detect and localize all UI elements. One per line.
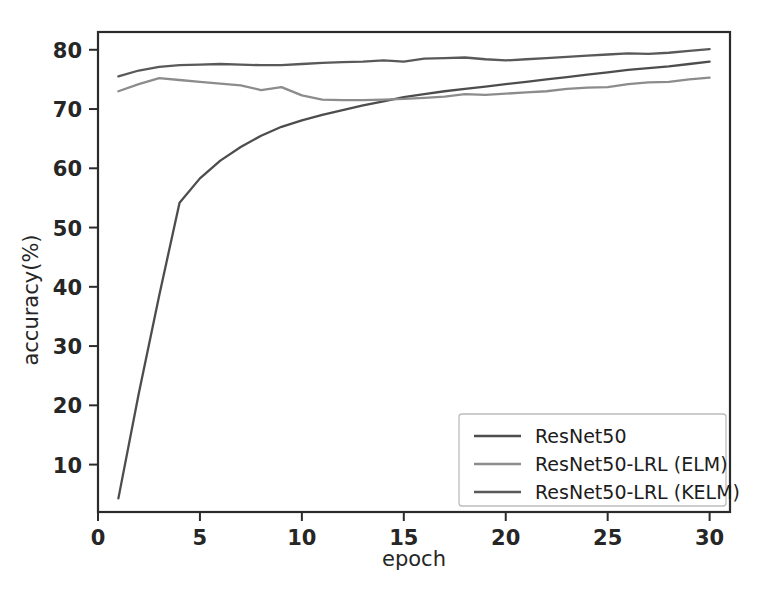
y-tick-label: 40 — [53, 276, 82, 300]
x-tick-label: 0 — [91, 526, 106, 550]
chart-legend: ResNet50ResNet50-LRL (ELM)ResNet50-LRL (… — [459, 414, 740, 506]
chart-figure: 051015202530 1020304050607080 epoch accu… — [0, 0, 764, 593]
y-tick-label: 10 — [53, 454, 82, 478]
x-tick-label: 20 — [491, 526, 520, 550]
y-tick-label: 30 — [53, 335, 82, 359]
y-tick-label: 60 — [53, 157, 82, 181]
y-tick-label: 50 — [53, 217, 82, 241]
y-tick-label: 70 — [53, 98, 82, 122]
legend-label: ResNet50-LRL (ELM) — [535, 453, 728, 475]
x-axis-ticks: 051015202530 — [91, 512, 725, 550]
y-tick-label: 20 — [53, 394, 82, 418]
y-tick-label: 80 — [53, 39, 82, 63]
x-tick-label: 25 — [593, 526, 622, 550]
x-tick-label: 10 — [287, 526, 316, 550]
x-tick-label: 30 — [695, 526, 724, 550]
legend-label: ResNet50-LRL (KELM) — [535, 481, 740, 503]
y-axis-label: accuracy(%) — [19, 234, 43, 365]
y-axis-ticks: 1020304050607080 — [53, 39, 98, 478]
legend-label: ResNet50 — [535, 425, 626, 447]
x-axis-label: epoch — [382, 547, 446, 571]
x-tick-label: 5 — [193, 526, 208, 550]
accuracy-vs-epoch-line-chart: 051015202530 1020304050607080 epoch accu… — [0, 0, 764, 593]
series-line-resnet50-lrl-kelm — [118, 49, 709, 76]
